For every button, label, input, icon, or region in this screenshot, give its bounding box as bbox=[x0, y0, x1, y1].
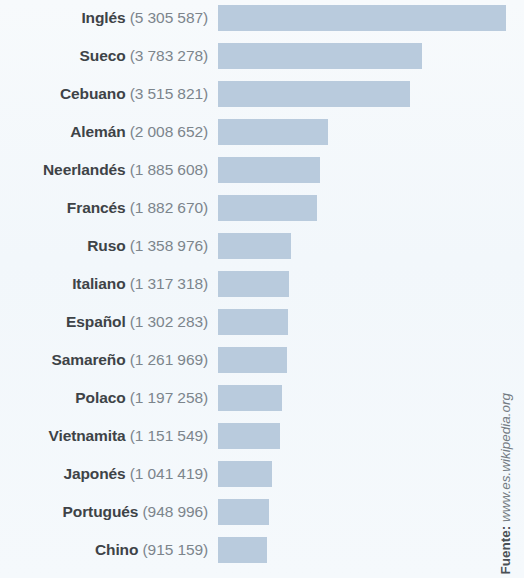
language-name: Español bbox=[66, 313, 126, 330]
language-name: Samareño bbox=[51, 351, 125, 368]
bar-track bbox=[218, 119, 518, 145]
row-label: Ruso (1 358 976) bbox=[0, 231, 208, 261]
row-label: Español (1 302 283) bbox=[0, 307, 208, 337]
row-label: Neerlandés (1 885 608) bbox=[0, 155, 208, 185]
language-name: Ruso bbox=[87, 237, 125, 254]
bar-track bbox=[218, 347, 518, 373]
language-name: Francés bbox=[67, 199, 126, 216]
language-name: Sueco bbox=[80, 47, 126, 64]
article-count: (1 151 549) bbox=[130, 427, 208, 444]
article-count: (915 159) bbox=[143, 541, 208, 558]
row-label: Inglés (5 305 587) bbox=[0, 3, 208, 33]
value-bar bbox=[218, 5, 506, 31]
row-label: Francés (1 882 670) bbox=[0, 193, 208, 223]
row-label: Cebuano (3 515 821) bbox=[0, 79, 208, 109]
article-count: (2 008 652) bbox=[130, 123, 208, 140]
chart-row: Portugués (948 996) bbox=[0, 497, 524, 527]
language-name: Japonés bbox=[63, 465, 125, 482]
row-label: Italiano (1 317 318) bbox=[0, 269, 208, 299]
value-bar bbox=[218, 81, 410, 107]
value-bar bbox=[218, 233, 291, 259]
bar-track bbox=[218, 233, 518, 259]
chart-row: Inglés (5 305 587) bbox=[0, 3, 524, 33]
chart-row: Sueco (3 783 278) bbox=[0, 41, 524, 71]
source-label: Fuente: bbox=[498, 525, 513, 574]
bar-track bbox=[218, 499, 518, 525]
chart-row: Cebuano (3 515 821) bbox=[0, 79, 524, 109]
language-name: Vietnamita bbox=[48, 427, 125, 444]
value-bar bbox=[218, 157, 320, 183]
article-count: (1 358 976) bbox=[130, 237, 208, 254]
row-label: Alemán (2 008 652) bbox=[0, 117, 208, 147]
source-credit: Fuente: www.es.wikipedia.org bbox=[500, 294, 524, 574]
source-credit-text: Fuente: www.es.wikipedia.org bbox=[499, 392, 513, 574]
article-count: (1 261 969) bbox=[130, 351, 208, 368]
chart-row: Español (1 302 283) bbox=[0, 307, 524, 337]
value-bar bbox=[218, 347, 287, 373]
bar-track bbox=[218, 5, 518, 31]
language-name: Polaco bbox=[75, 389, 125, 406]
article-count: (3 515 821) bbox=[130, 85, 208, 102]
bar-track bbox=[218, 271, 518, 297]
bar-track bbox=[218, 309, 518, 335]
row-label: Vietnamita (1 151 549) bbox=[0, 421, 208, 451]
language-name: Inglés bbox=[81, 9, 125, 26]
value-bar bbox=[218, 43, 422, 69]
chart-row: Italiano (1 317 318) bbox=[0, 269, 524, 299]
value-bar bbox=[218, 499, 269, 525]
article-count: (5 305 587) bbox=[130, 9, 208, 26]
chart-row: Neerlandés (1 885 608) bbox=[0, 155, 524, 185]
chart-row: Alemán (2 008 652) bbox=[0, 117, 524, 147]
value-bar bbox=[218, 119, 328, 145]
value-bar bbox=[218, 385, 282, 411]
value-bar bbox=[218, 537, 267, 563]
chart-rows-container: Inglés (5 305 587)Sueco (3 783 278)Cebua… bbox=[0, 0, 524, 578]
value-bar bbox=[218, 309, 288, 335]
language-bar-chart: Inglés (5 305 587)Sueco (3 783 278)Cebua… bbox=[0, 0, 524, 578]
bar-track bbox=[218, 195, 518, 221]
chart-row: Francés (1 882 670) bbox=[0, 193, 524, 223]
value-bar bbox=[218, 423, 280, 449]
bar-track bbox=[218, 43, 518, 69]
article-count: (1 885 608) bbox=[130, 161, 208, 178]
article-count: (1 317 318) bbox=[130, 275, 208, 292]
bar-track bbox=[218, 423, 518, 449]
language-name: Alemán bbox=[70, 123, 125, 140]
chart-row: Vietnamita (1 151 549) bbox=[0, 421, 524, 451]
language-name: Portugués bbox=[63, 503, 139, 520]
article-count: (1 302 283) bbox=[130, 313, 208, 330]
row-label: Samareño (1 261 969) bbox=[0, 345, 208, 375]
article-count: (3 783 278) bbox=[130, 47, 208, 64]
article-count: (948 996) bbox=[143, 503, 208, 520]
bar-track bbox=[218, 461, 518, 487]
source-url: www.es.wikipedia.org bbox=[498, 392, 513, 521]
article-count: (1 882 670) bbox=[130, 199, 208, 216]
bar-track bbox=[218, 81, 518, 107]
chart-row: Polaco (1 197 258) bbox=[0, 383, 524, 413]
bar-track bbox=[218, 537, 518, 563]
row-label: Japonés (1 041 419) bbox=[0, 459, 208, 489]
row-label: Portugués (948 996) bbox=[0, 497, 208, 527]
language-name: Cebuano bbox=[60, 85, 126, 102]
row-label: Sueco (3 783 278) bbox=[0, 41, 208, 71]
language-name: Chino bbox=[95, 541, 138, 558]
chart-row: Japonés (1 041 419) bbox=[0, 459, 524, 489]
value-bar bbox=[218, 461, 272, 487]
chart-row: Samareño (1 261 969) bbox=[0, 345, 524, 375]
language-name: Italiano bbox=[72, 275, 125, 292]
row-label: Polaco (1 197 258) bbox=[0, 383, 208, 413]
article-count: (1 041 419) bbox=[130, 465, 208, 482]
bar-track bbox=[218, 385, 518, 411]
value-bar bbox=[218, 195, 317, 221]
article-count: (1 197 258) bbox=[130, 389, 208, 406]
chart-row: Chino (915 159) bbox=[0, 535, 524, 565]
row-label: Chino (915 159) bbox=[0, 535, 208, 565]
language-name: Neerlandés bbox=[43, 161, 126, 178]
chart-row: Ruso (1 358 976) bbox=[0, 231, 524, 261]
value-bar bbox=[218, 271, 289, 297]
bar-track bbox=[218, 157, 518, 183]
